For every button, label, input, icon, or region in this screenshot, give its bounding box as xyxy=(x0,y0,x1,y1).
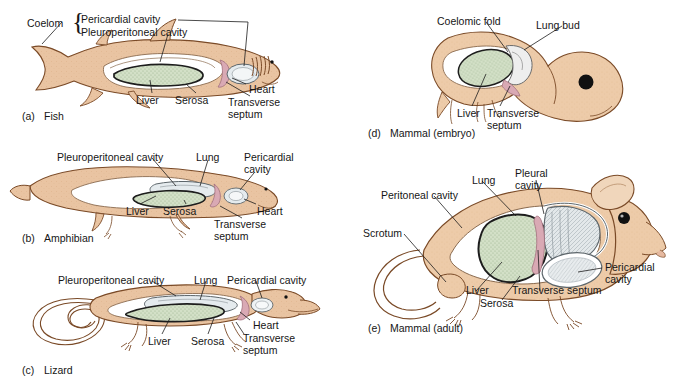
label-lung-lizard: Lung xyxy=(194,275,217,287)
label-liver-fish: Liver xyxy=(136,95,159,107)
label-serosa-fish: Serosa xyxy=(175,95,208,107)
leader-lines xyxy=(0,0,673,388)
label-lung-mammal: Lung xyxy=(472,175,495,187)
label-heart-amphibian: Heart xyxy=(257,206,283,218)
caption-text-lizard: Lizard xyxy=(44,364,73,376)
label-transverse-septum-amphibian: Transverse septum xyxy=(214,219,266,242)
label-heart-fish: Heart xyxy=(249,84,275,96)
label-liver-lizard: Liver xyxy=(148,336,171,348)
caption-text-mammal-embryo: Mammal (embryo) xyxy=(390,127,475,139)
anatomy-illustrations xyxy=(0,0,673,388)
label-pericardial-cavity-fish: Pericardial cavity xyxy=(81,14,160,26)
label-serosa-lizard: Serosa xyxy=(191,336,224,348)
figure-canvas: Coelom { Pericardial cavity Pleuroperito… xyxy=(0,0,673,388)
caption-fish: (a)Fish xyxy=(22,110,64,122)
label-serosa-amphibian: Serosa xyxy=(163,206,196,218)
label-pericardial-cavity-amphibian: Pericardial cavity xyxy=(244,152,294,175)
caption-mammal-adult: (e)Mammal (adult) xyxy=(368,322,463,334)
caption-text-fish: Fish xyxy=(44,110,64,122)
label-transverse-septum-fish: Transverse septum xyxy=(228,97,280,120)
label-transverse-septum-mammal: Transverse septum xyxy=(512,285,601,297)
label-liver-amphibian: Liver xyxy=(126,206,149,218)
label-serosa-mammal: Serosa xyxy=(480,298,513,310)
label-heart-lizard: Heart xyxy=(253,320,279,332)
label-liver-embryo: Liver xyxy=(457,108,480,120)
caption-text-amphibian: Amphibian xyxy=(44,232,94,244)
label-lung-amphibian: Lung xyxy=(196,152,219,164)
label-coelom: Coelom xyxy=(27,18,63,30)
label-lung-bud: Lung bud xyxy=(536,20,580,32)
label-pericardial-cavity-mammal: Pericardial cavity xyxy=(605,262,655,285)
label-pleuroperitoneal-cavity-fish: Pleuroperitoneal cavity xyxy=(81,27,187,39)
caption-letter-b: (b) xyxy=(22,232,44,244)
caption-letter-a: (a) xyxy=(22,110,44,122)
label-peritoneal-cavity: Peritoneal cavity xyxy=(381,190,458,202)
label-coelomic-fold: Coelomic fold xyxy=(437,16,501,28)
label-transverse-septum-embryo: Transverse septum xyxy=(487,108,539,131)
caption-letter-c: (c) xyxy=(22,364,44,376)
label-pleuroperitoneal-cavity-lizard: Pleuroperitoneal cavity xyxy=(58,275,164,287)
caption-letter-d: (d) xyxy=(368,127,390,139)
caption-mammal-embryo: (d)Mammal (embryo) xyxy=(368,127,475,139)
caption-text-mammal-adult: Mammal (adult) xyxy=(390,322,463,334)
caption-amphibian: (b)Amphibian xyxy=(22,232,94,244)
label-pericardial-cavity-lizard: Pericardial cavity xyxy=(227,275,306,287)
label-pleuroperitoneal-cavity-amphibian: Pleuroperitoneal cavity xyxy=(57,152,163,164)
caption-letter-e: (e) xyxy=(368,322,390,334)
label-scrotum: Scrotum xyxy=(363,228,402,240)
label-transverse-septum-lizard: Transverse septum xyxy=(243,333,295,356)
caption-lizard: (c)Lizard xyxy=(22,364,73,376)
label-liver-mammal: Liver xyxy=(466,285,489,297)
label-pleural-cavity: Pleural cavity xyxy=(515,168,548,191)
